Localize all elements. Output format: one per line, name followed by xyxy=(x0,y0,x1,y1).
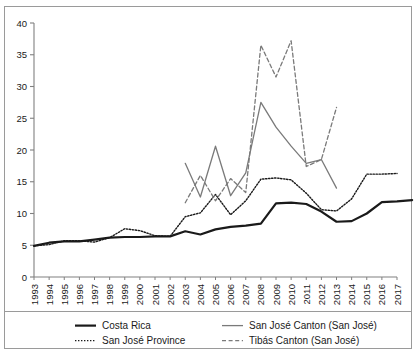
y-axis: 0510152025303540 xyxy=(16,18,34,283)
series-line xyxy=(185,102,336,197)
y-tick-label: 0 xyxy=(22,272,27,283)
x-tick-label: 1993 xyxy=(29,284,40,305)
y-tick-label: 10 xyxy=(16,208,27,219)
x-tick-label: 2004 xyxy=(195,284,206,305)
legend-label: San José Canton (San José) xyxy=(249,320,377,331)
x-tick-label: 2011 xyxy=(301,284,312,304)
legend-label: Costa Rica xyxy=(102,320,151,331)
x-axis: 1993199419951996199719981999200020012002… xyxy=(29,277,403,305)
y-tick-label: 35 xyxy=(16,49,27,60)
x-tick-label: 2012 xyxy=(316,284,327,305)
x-tick-label: 2000 xyxy=(134,284,145,305)
x-tick-label: 1999 xyxy=(119,284,130,305)
x-tick-label: 2017 xyxy=(392,284,403,305)
x-tick-label: 2009 xyxy=(271,284,282,305)
x-tick-label: 2002 xyxy=(165,284,176,305)
series-line xyxy=(34,200,412,246)
x-tick-label: 2016 xyxy=(376,284,387,305)
y-tick-label: 25 xyxy=(16,113,27,124)
data-series-group xyxy=(34,41,412,246)
chart-figure: 0510152025303540 19931994199519961997199… xyxy=(0,0,417,356)
y-tick-label: 40 xyxy=(16,18,27,29)
x-tick-label: 1995 xyxy=(59,284,70,305)
legend: Costa RicaSan José Canton (San José)San … xyxy=(75,320,377,346)
series-line xyxy=(34,173,397,245)
x-tick-label: 1996 xyxy=(74,284,85,305)
line-chart-svg: 0510152025303540 19931994199519961997199… xyxy=(0,0,417,356)
x-tick-label: 2007 xyxy=(240,284,251,305)
x-tick-label: 2013 xyxy=(331,284,342,305)
x-tick-label: 2003 xyxy=(180,284,191,305)
legend-label: San José Province xyxy=(102,335,186,346)
y-tick-label: 5 xyxy=(22,240,27,251)
x-tick-label: 2015 xyxy=(361,284,372,305)
x-tick-label: 1998 xyxy=(104,284,115,305)
x-tick-label: 2006 xyxy=(225,284,236,305)
y-tick-label: 30 xyxy=(16,81,27,92)
x-tick-label: 2001 xyxy=(150,284,161,305)
plot-area: 0510152025303540 19931994199519961997199… xyxy=(0,0,417,356)
x-tick-label: 2010 xyxy=(286,284,297,305)
y-tick-label: 15 xyxy=(16,176,27,187)
x-tick-label: 2005 xyxy=(210,284,221,305)
x-tick-label: 1994 xyxy=(44,284,55,305)
legend-label: Tibás Canton (San José) xyxy=(249,335,359,346)
series-line xyxy=(185,41,336,203)
x-tick-label: 1997 xyxy=(89,284,100,305)
y-tick-label: 20 xyxy=(16,145,27,156)
x-tick-label: 2008 xyxy=(255,284,266,305)
x-tick-label: 2014 xyxy=(346,284,357,305)
